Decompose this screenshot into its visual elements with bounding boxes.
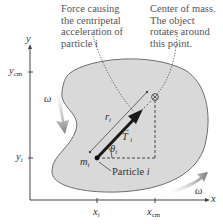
force-callout: Force causing the centripetal accelerati… — [61, 3, 123, 49]
particle-label: Particle i — [112, 166, 150, 178]
com-callout-line-1: Center of mass. — [150, 3, 216, 15]
force-callout-line-3: acceleration of — [61, 26, 123, 38]
x-cm-label: xcm — [147, 206, 160, 222]
y-axis-label: y — [26, 33, 31, 45]
com-callout-line-4: this point. — [150, 38, 216, 50]
com-callout-line-3: rotates around — [150, 26, 216, 38]
x-i-label: xi — [93, 206, 100, 222]
force-callout-line-4: particle i — [61, 38, 123, 50]
y-i-label: yi — [16, 151, 23, 167]
diagram: Force causing the centripetal accelerati… — [0, 0, 223, 224]
omega-label-right: ω — [195, 185, 202, 197]
com-callout: Center of mass. The object rotates aroun… — [150, 3, 216, 49]
y-cm-label: ycm — [9, 65, 22, 81]
x-axis-label: x — [211, 193, 216, 205]
force-callout-line-2: the centripetal — [61, 15, 123, 27]
radius-label: ri — [105, 111, 111, 127]
force-callout-line-1: Force causing — [61, 3, 123, 15]
omega-label-left: ω — [44, 93, 51, 105]
com-callout-line-2: The object — [150, 15, 216, 27]
angle-label: θi — [110, 143, 117, 159]
particle-dot — [95, 156, 100, 161]
force-label: → T i — [122, 131, 132, 147]
mass-label: mi — [80, 156, 90, 172]
vector-arrow-icon: → — [122, 124, 130, 136]
